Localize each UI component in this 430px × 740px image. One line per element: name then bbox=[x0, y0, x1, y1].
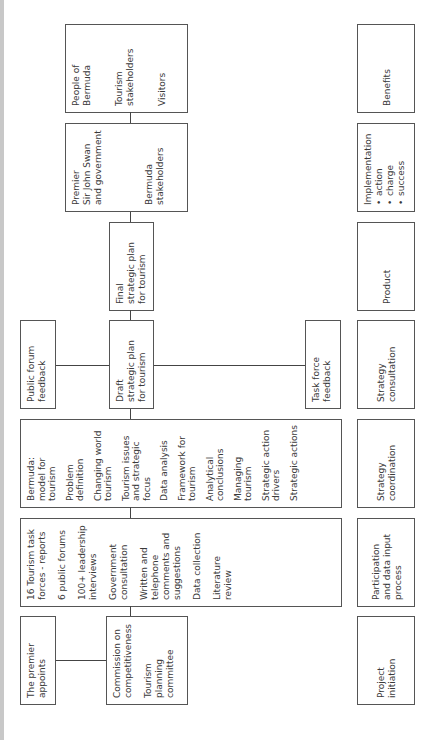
stage-benefits: Benefits bbox=[357, 24, 415, 113]
connector-participation-bermuda bbox=[130, 507, 131, 518]
stage-label: Benefits bbox=[382, 29, 393, 106]
draft-plan-text: Draft strategic plan for tourism bbox=[115, 325, 148, 402]
connector-draft-taskforce bbox=[154, 365, 305, 366]
connector-forum-draft bbox=[56, 365, 109, 366]
bullet-item: action bbox=[374, 128, 385, 196]
bermuda-item: Tourism issues and strategic focus bbox=[121, 424, 153, 501]
stage-strategy-consultation: Strategy consultation bbox=[357, 320, 415, 409]
implementation-bullets: action charge success bbox=[374, 128, 407, 205]
people-box: People of Bermuda Tourism stakeholders V… bbox=[65, 24, 188, 113]
bermuda-item: Framework for tourism bbox=[177, 424, 198, 501]
connector-bermuda-draft bbox=[130, 409, 131, 419]
stage-label: Product bbox=[382, 227, 393, 304]
bermuda-item: Strategic actions bbox=[289, 424, 300, 501]
connector-commission-participation bbox=[130, 606, 131, 616]
final-plan-box: Final strategic plan for tourism bbox=[109, 222, 154, 311]
connector-appoints-commission bbox=[56, 660, 106, 661]
people-item: People of Bermuda bbox=[71, 29, 93, 106]
stage-strategy-coordination: Strategy coordination bbox=[357, 419, 415, 508]
commission-box: Commission on competitiveness Tourism pl… bbox=[106, 616, 188, 705]
stage-implementation: Implementation action charge success bbox=[357, 123, 415, 212]
bermuda-item: Managing tourism bbox=[233, 424, 254, 501]
bermuda-item: Data analysis bbox=[159, 424, 170, 501]
stage-label: Project initiation bbox=[376, 621, 398, 698]
participation-item: Data collection bbox=[192, 523, 203, 600]
stage-label: Implementation bbox=[363, 128, 374, 205]
task-force-feedback-box: Task force feedback bbox=[305, 320, 341, 409]
bermuda-item: Analytical conclusions bbox=[205, 424, 226, 501]
draft-plan-box: Draft strategic plan for tourism bbox=[109, 320, 154, 409]
connector-final-premier bbox=[130, 212, 131, 222]
bermuda-item: Changing world tourism bbox=[93, 424, 114, 501]
commission-item: Commission on competitiveness bbox=[112, 621, 134, 698]
bermuda-model-box: Bermuda: model for tourism Problem defin… bbox=[20, 419, 342, 508]
participation-item: 100+ leadership interviews bbox=[77, 523, 99, 600]
bullet-item: success bbox=[396, 128, 407, 196]
final-plan-text: Final strategic plan for tourism bbox=[115, 227, 148, 304]
bermuda-item: Strategic action drivers bbox=[261, 424, 282, 501]
connector-premier-people bbox=[130, 112, 131, 123]
public-forum-feedback-box: Public forum feedback bbox=[20, 320, 56, 409]
premier-government-item: Bermuda stakeholders bbox=[144, 128, 166, 205]
stage-label: Strategy coordination bbox=[376, 424, 398, 501]
premier-appoints-text: The premier appoints bbox=[26, 621, 48, 698]
people-item: Tourism stakeholders bbox=[114, 29, 136, 106]
participation-item: Literature review bbox=[212, 523, 234, 600]
connector-draft-final bbox=[130, 310, 131, 320]
participation-item: 6 public forums bbox=[57, 523, 68, 600]
stage-product: Product bbox=[357, 222, 415, 311]
page-edge-strip bbox=[0, 0, 4, 740]
participation-item: Written and telephone comments and sugge… bbox=[139, 523, 183, 600]
participation-item: 16 Tourism task forces - reports bbox=[26, 523, 48, 600]
bermuda-item: Bermuda: model for tourism bbox=[26, 424, 58, 501]
people-item: Visitors bbox=[157, 29, 168, 106]
premier-government-box: Premier Sir John Swan and government Ber… bbox=[65, 123, 188, 212]
public-forum-feedback-text: Public forum feedback bbox=[26, 325, 48, 402]
bullet-item: charge bbox=[385, 128, 396, 196]
participation-inputs-box: 16 Tourism task forces - reports 6 publi… bbox=[20, 518, 342, 607]
premier-appoints-box: The premier appoints bbox=[20, 616, 56, 705]
stage-project-initiation: Project initiation bbox=[357, 616, 415, 705]
stage-participation: Participation and data input process bbox=[357, 518, 415, 607]
participation-item: Government consultation bbox=[108, 523, 130, 600]
premier-government-item: Premier Sir John Swan and government bbox=[71, 128, 104, 205]
task-force-feedback-text: Task force feedback bbox=[311, 325, 333, 402]
stage-label: Participation and data input process bbox=[371, 523, 404, 600]
commission-item: Tourism planning committee bbox=[143, 621, 176, 698]
bermuda-item: Problem definition bbox=[65, 424, 86, 501]
stage-label: Strategy consultation bbox=[376, 325, 398, 402]
